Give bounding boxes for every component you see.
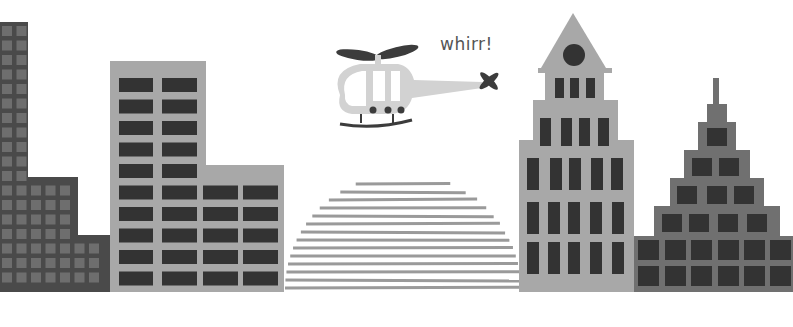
striped-dome [285, 184, 521, 288]
helicopter [336, 42, 501, 126]
tail-rotor [478, 70, 501, 92]
stepped-pyramid-building [634, 78, 793, 292]
rotor-left [336, 47, 381, 63]
clock-circle [563, 44, 585, 66]
spire-tower [519, 13, 634, 292]
gray-office-building [110, 61, 284, 292]
dark-stepped-building [0, 22, 110, 292]
rotor-right [374, 42, 419, 62]
whirr-caption: whirr! [440, 34, 493, 54]
city-skyline-illustration [0, 0, 793, 327]
